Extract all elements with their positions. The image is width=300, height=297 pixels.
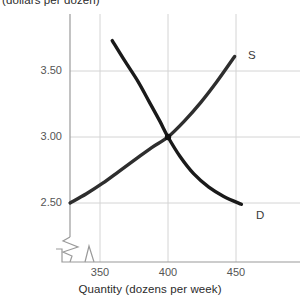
axes <box>56 14 300 262</box>
demand-curve-label: D <box>256 209 264 221</box>
supply-curve <box>70 56 235 203</box>
gridlines <box>70 14 300 262</box>
x-axis-title: Quantity (dozens per week) <box>0 283 300 295</box>
y-tick-label-3-50: 3.50 <box>18 64 62 76</box>
x-tick-label-350: 350 <box>80 266 120 278</box>
supply-curve-label: S <box>248 49 256 61</box>
x-axis-break-icon <box>85 246 94 262</box>
y-tick-label-3-00: 3.00 <box>18 130 62 142</box>
supply-demand-chart: (dollars per dozen) 3.50 3.00 2.50 350 4… <box>0 0 300 297</box>
chart-plot-area <box>0 0 300 297</box>
demand-curve <box>112 41 241 205</box>
y-tick-label-2-50: 2.50 <box>18 196 62 208</box>
x-tick-label-450: 450 <box>216 266 256 278</box>
equilibrium-point <box>165 134 171 140</box>
y-axis-break-icon <box>63 237 78 262</box>
x-tick-label-400: 400 <box>148 266 188 278</box>
